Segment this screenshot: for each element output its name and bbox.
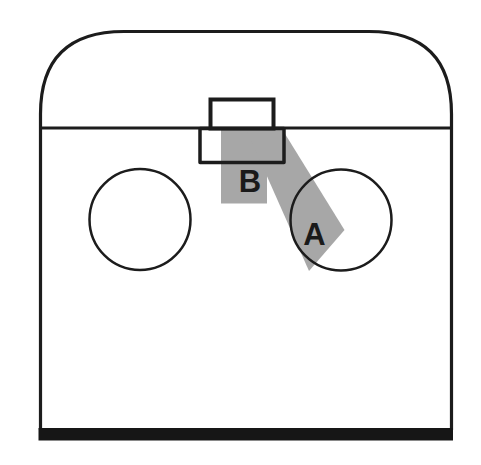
blue-line-bar: [39, 428, 454, 441]
left-faceoff-circle: [90, 169, 191, 270]
zone-b-label: B: [239, 164, 261, 199]
zone-a-label: A: [303, 217, 325, 252]
rink-diagram: B A: [0, 0, 481, 465]
goal-net: [211, 100, 274, 129]
rink-diagram-canvas: B A: [0, 0, 481, 465]
